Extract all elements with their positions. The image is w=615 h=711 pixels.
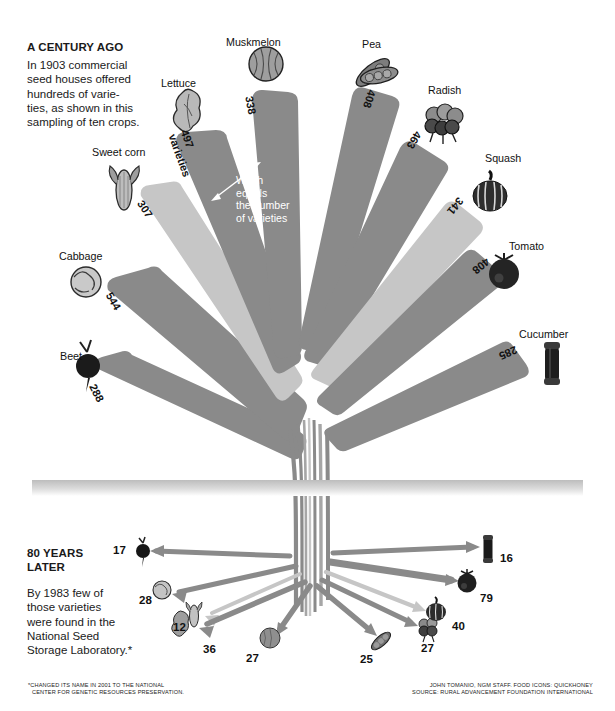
source-line-1: JOHN TOMANIO, NGM STAFF. FOOD ICONS: QUI…: [313, 682, 593, 689]
later-heading-line-2: LATER: [27, 560, 137, 574]
later-value-cucumber: 16: [500, 552, 513, 564]
cabbage-icon: [71, 267, 101, 297]
squash-icon: [473, 171, 507, 211]
muskmelon-icon-small: [260, 628, 280, 648]
intro-line-3: hundreds of varie-: [27, 87, 177, 101]
later-value-sweetcorn: 12: [173, 621, 186, 633]
intro-line-2: seed houses offered: [27, 72, 177, 86]
crop-label-cabbage: Cabbage: [59, 250, 102, 262]
later-value-radish: 27: [421, 642, 434, 654]
later-value-cabbage: 28: [139, 594, 152, 606]
infographic-canvas: A CENTURY AGO In 1903 commercial seed ho…: [0, 0, 615, 711]
crop-label-lettuce: Lettuce: [161, 77, 196, 89]
arrow-beet: [156, 551, 290, 556]
crop-label-pea: Pea: [362, 38, 381, 50]
ground-band: [32, 480, 583, 496]
page-title: A CENTURY AGO: [27, 40, 187, 54]
later-value-squash: 40: [452, 620, 465, 632]
later-value-tomato: 79: [480, 592, 493, 604]
source-line-2: SOURCE: RURAL ADVANCEMENT FOUNDATION INT…: [313, 689, 593, 696]
later-line-5: Storage Laboratory.*: [27, 643, 157, 657]
radish-icon: [425, 104, 463, 144]
petal-group: [95, 87, 529, 459]
footnote-line-2: CENTER FOR GENETIC RESOURCES PRESERVATIO…: [28, 689, 248, 696]
width-annotation-label: Width equals the number of varieties: [236, 174, 308, 224]
crop-label-radish: Radish: [428, 84, 461, 96]
lettuce-icon: [173, 89, 200, 131]
footnote: *CHANGED ITS NAME IN 2001 TO THE NATIONA…: [28, 682, 248, 697]
tomato-icon-small: [458, 569, 477, 593]
cucumber-icon-small: [483, 535, 493, 563]
cucumber-icon: [544, 342, 560, 385]
crop-label-tomato: Tomato: [509, 240, 544, 252]
tomato-icon: [489, 253, 519, 289]
beet-icon-small: [136, 537, 150, 567]
arrow-cabbage: [179, 566, 296, 592]
width-annotation-line-2: equals: [236, 187, 308, 200]
later-value-beet: 17: [113, 544, 126, 556]
radish-icon-small: [419, 618, 437, 642]
later-paragraph: By 1983 few of those varieties were foun…: [27, 586, 157, 657]
intro-line-4: ties, as shown in this: [27, 101, 177, 115]
intro-paragraph: In 1903 commercial seed houses offered h…: [27, 58, 177, 129]
arrow-tomato: [330, 562, 451, 580]
source-credit: JOHN TOMANIO, NGM STAFF. FOOD ICONS: QUI…: [313, 682, 593, 697]
width-annotation-line-1: Width: [236, 174, 308, 187]
muskmelon-icon: [249, 47, 283, 81]
crop-label-muskmelon: Muskmelon: [226, 36, 281, 48]
crop-label-beet: Beet: [60, 350, 82, 362]
crop-label-cucumber: Cucumber: [519, 328, 568, 340]
width-annotation-line-3: the number: [236, 199, 308, 212]
later-value-lettuce: 36: [203, 643, 216, 655]
crop-label-squash: Squash: [485, 152, 521, 164]
later-value-pea: 25: [360, 653, 373, 665]
arrow-cucumber: [333, 547, 472, 553]
crop-label-sweetcorn: Sweet corn: [92, 146, 145, 158]
pea-icon: [352, 54, 399, 91]
later-line-1: By 1983 few of: [27, 586, 157, 600]
intro-line-5: sampling of ten crops.: [27, 115, 177, 129]
later-value-muskmelon: 27: [246, 652, 259, 664]
footnote-line-1: *CHANGED ITS NAME IN 2001 TO THE NATIONA…: [28, 682, 248, 689]
intro-line-1: In 1903 commercial: [27, 58, 177, 72]
later-line-4: National Seed: [27, 629, 157, 643]
width-annotation-line-4: of varieties: [236, 212, 308, 225]
later-line-2: those varieties: [27, 600, 157, 614]
later-line-3: were found in the: [27, 615, 157, 629]
squash-icon-small: [426, 597, 446, 621]
